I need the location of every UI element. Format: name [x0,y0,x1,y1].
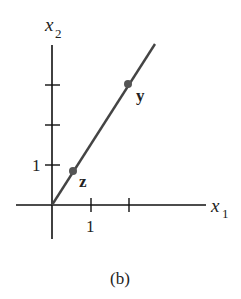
x-axis-subscript: 1 [222,206,229,221]
point-z [69,167,77,175]
y-axis-subscript: 2 [55,26,62,41]
x-axis-label: x [210,195,220,216]
figure-caption: (b) [110,269,130,288]
diagram-canvas: z y 1 1 x 1 x 2 (b) [0,0,241,299]
x-tick-label: 1 [86,217,95,236]
point-y [124,80,132,88]
span-line [52,44,155,205]
y-tick-label: 1 [32,156,41,175]
label-z: z [79,172,87,191]
y-axis-label: x [44,14,54,35]
label-y: y [136,86,145,105]
